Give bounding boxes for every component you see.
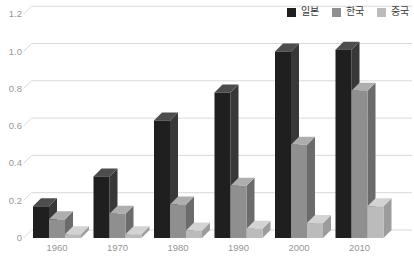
y-tick-label: 0 xyxy=(17,232,22,243)
x-tick-label: 2010 xyxy=(349,242,370,253)
bar-front-face xyxy=(215,93,231,238)
bar-group-1960 xyxy=(33,198,89,238)
legend-item-korea: 한국 xyxy=(332,7,364,17)
bar-front-face xyxy=(275,52,291,239)
legend-swatch-china xyxy=(377,8,386,17)
x-tick-label: 1960 xyxy=(46,242,67,253)
y-tick-label: 0.6 xyxy=(9,120,22,131)
bar-group-1970 xyxy=(94,168,150,238)
bar-china-2010 xyxy=(368,198,392,238)
legend-item-japan: 일본 xyxy=(287,7,319,17)
bar-front-face xyxy=(231,186,247,238)
x-tick-label: 1970 xyxy=(107,242,128,253)
legend-label-china: 중국 xyxy=(391,7,409,17)
bar-front-face xyxy=(368,206,384,238)
legend-label-japan: 일본 xyxy=(301,7,319,17)
bar-front-face xyxy=(49,219,65,238)
gridline-depth-segment xyxy=(24,193,32,201)
bar-front-face xyxy=(170,204,186,238)
legend-swatch-korea xyxy=(332,8,341,17)
bar-front-face xyxy=(186,231,202,238)
plot-area: 00.20.40.60.81.01.2196019701980199020002… xyxy=(0,0,414,262)
x-tick-label: 1990 xyxy=(228,242,249,253)
y-tick-label: 0.4 xyxy=(9,157,22,168)
x-tick-label: 1980 xyxy=(167,242,188,253)
y-tick-label: 0.2 xyxy=(9,195,22,206)
bar-group-2000 xyxy=(275,44,331,239)
bar-front-face xyxy=(33,206,49,238)
legend-swatch-japan xyxy=(287,8,296,17)
bar-front-face xyxy=(110,214,126,238)
gridline-depth-segment xyxy=(24,118,32,126)
bar-chart-3d: 00.20.40.60.81.01.2196019701980199020002… xyxy=(0,0,414,262)
legend-label-korea: 한국 xyxy=(346,7,364,17)
gridline-depth-segment xyxy=(24,81,32,89)
bar-front-face xyxy=(126,234,142,238)
y-tick-label: 0.8 xyxy=(9,83,22,94)
bar-front-face xyxy=(154,121,170,238)
bar-front-face xyxy=(247,229,263,238)
x-tick-label: 2000 xyxy=(288,242,309,253)
bar-front-face xyxy=(94,176,110,238)
bar-group-1980 xyxy=(154,113,210,238)
bar-group-2010 xyxy=(336,42,392,238)
bar-front-face xyxy=(336,50,352,238)
y-tick-label: 1.2 xyxy=(9,8,22,19)
gridline-depth-segment xyxy=(24,155,32,163)
bar-front-face xyxy=(291,145,307,238)
gridline-depth-segment xyxy=(24,6,32,14)
y-tick-label: 1.0 xyxy=(9,46,22,57)
gridline-depth-segment xyxy=(24,230,32,238)
bar-front-face xyxy=(65,234,81,238)
gridline-depth-segment xyxy=(24,44,32,52)
chart-legend: 일본한국중국 xyxy=(287,7,409,17)
bar-group-1990 xyxy=(215,85,271,238)
bar-front-face xyxy=(352,91,368,238)
bar-front-face xyxy=(307,223,323,238)
legend-item-china: 중국 xyxy=(377,7,409,17)
